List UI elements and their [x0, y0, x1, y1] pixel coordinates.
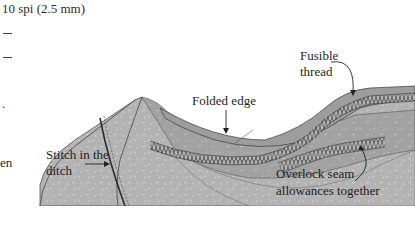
label-stitch-in-ditch-line2: ditch [46, 163, 72, 178]
label-folded-edge: Folded edge [192, 93, 256, 108]
label-fusible-thread-line1: Fusible [300, 48, 338, 63]
label-fusible-thread-line2: thread [300, 64, 332, 79]
arrowhead-folded-edge [223, 128, 229, 134]
label-stitch-in-ditch-line1: Stitch in the [46, 147, 109, 162]
label-overlock-line1: Overlock seam [276, 166, 354, 181]
leader-fusible-thread [331, 62, 353, 92]
label-overlock-line2: allowances together [276, 183, 380, 198]
